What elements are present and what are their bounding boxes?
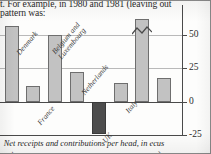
bar-italy: [114, 83, 128, 102]
y-tick-label-50: 50: [189, 29, 199, 39]
y-tick-50: [182, 35, 187, 36]
bar-france: [26, 86, 40, 102]
page-edge-bottom: [0, 153, 211, 154]
figure-page: t. For example, in 1980 and 1981 (leavin…: [0, 0, 211, 154]
zero-line: [0, 102, 182, 103]
y-tick-label--25: -25: [189, 129, 202, 139]
y-tick-label-0: 0: [189, 96, 194, 106]
y-tick-0: [182, 102, 187, 103]
y-tick-label-25: 25: [189, 62, 199, 72]
y-tick--25: [182, 135, 187, 136]
page-edge-top: [0, 0, 211, 1]
axis-bottom-line: [0, 135, 182, 136]
gridline-25: [0, 68, 182, 69]
bar-uk: [92, 102, 106, 134]
bar-greece: [157, 78, 171, 102]
y-tick-25: [182, 68, 187, 69]
y-axis-line: [182, 5, 183, 135]
bar-ireland: [135, 19, 149, 102]
page-edge-right: [210, 0, 211, 154]
bar-denmark: [5, 26, 19, 102]
body-text-line-2: pattern was:: [0, 8, 45, 18]
bar-chart-figure: Net receipts and contributions per head,…: [0, 19, 211, 154]
figure-caption: Net receipts and contributions per head,…: [0, 139, 182, 148]
